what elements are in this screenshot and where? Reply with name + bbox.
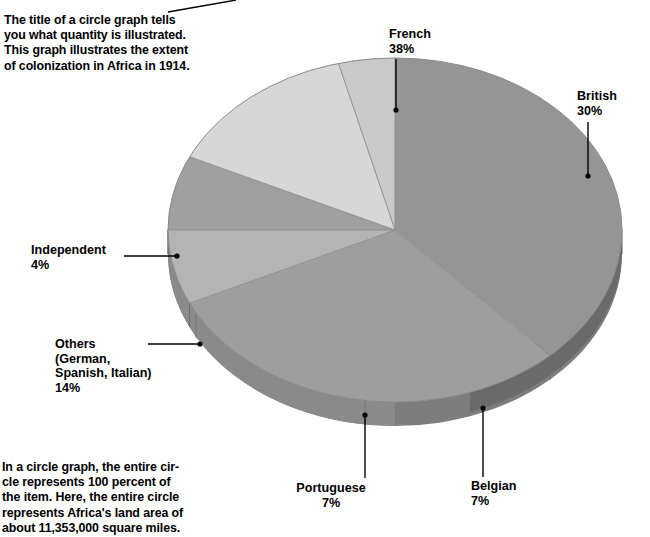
slice-label-belgian: Belgian 7% (471, 479, 517, 508)
leader-dot-belgian (480, 405, 485, 410)
slice-label-french: French 38% (389, 27, 431, 56)
note-percent-explanation: In a circle graph, the entire cir- cle r… (2, 460, 242, 536)
leader-dot-portuguese (362, 412, 367, 417)
leader-title (168, 0, 236, 12)
leader-dot-independent (174, 253, 179, 258)
leader-dot-others (197, 341, 202, 346)
leader-dot-french (393, 107, 398, 112)
slice-label-portuguese: Portuguese 7% (291, 481, 371, 510)
slice-label-independent: Independent 4% (31, 243, 106, 272)
slice-label-others: Others (German, Spanish, Italian) 14% (55, 337, 152, 395)
slice-label-british: British 30% (577, 89, 617, 118)
note-title-explanation: The title of a circle graph tells you wh… (4, 13, 236, 74)
leader-dot-british (585, 173, 590, 178)
circle-graph-figure: noitazinoloc fo tnetxe eht setartsu hcih… (0, 0, 650, 537)
